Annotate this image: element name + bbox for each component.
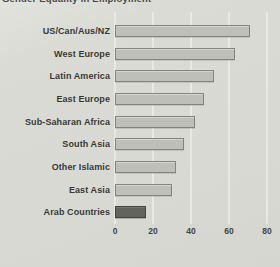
category-label: Arab Countries: [2, 207, 110, 217]
bar-east-asia: [115, 184, 172, 196]
category-label: West Europe: [2, 49, 110, 59]
category-label: Sub-Saharan Africa: [2, 117, 110, 127]
bar-east-europe: [115, 93, 204, 105]
category-label: East Asia: [2, 185, 110, 195]
x-axis-tick-label: 40: [180, 226, 202, 236]
gridline: [266, 12, 268, 224]
bar-latin-america: [115, 70, 214, 82]
bar-other-islamic: [115, 161, 176, 173]
bar-sub-saharan-africa: [115, 116, 195, 128]
gridline: [228, 12, 230, 224]
category-label: South Asia: [2, 139, 110, 149]
category-label: Latin America: [2, 71, 110, 81]
plot-area: 020406080US/Can/Aus/NZWest EuropeLatin A…: [0, 0, 280, 267]
bar-chart-figure: Gender Equality in Employment 020406080U…: [0, 0, 280, 267]
category-label: US/Can/Aus/NZ: [2, 26, 110, 36]
bar-south-asia: [115, 138, 184, 150]
bar-arab-countries: [115, 206, 146, 218]
x-axis-tick-label: 60: [218, 226, 240, 236]
category-label: Other Islamic: [2, 162, 110, 172]
bar-us-can-aus-nz: [115, 25, 250, 37]
x-axis-tick-label: 0: [104, 226, 126, 236]
bar-west-europe: [115, 48, 235, 60]
x-axis-tick-label: 80: [256, 226, 278, 236]
category-label: East Europe: [2, 94, 110, 104]
x-axis-tick-label: 20: [142, 226, 164, 236]
